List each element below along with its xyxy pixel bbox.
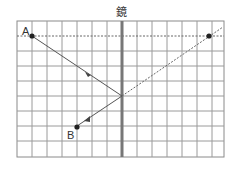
mirror	[121, 21, 124, 157]
grid-canvas	[0, 0, 238, 171]
point-b	[74, 124, 79, 129]
point-a-label: A	[22, 26, 29, 37]
point-b-label: B	[67, 130, 74, 141]
mirror-label: 鏡	[116, 7, 127, 18]
point-a	[29, 33, 34, 38]
image-point	[206, 33, 211, 38]
